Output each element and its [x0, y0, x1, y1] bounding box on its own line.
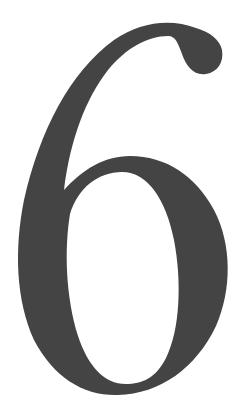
numeral-six: 6: [0, 0, 244, 415]
numeral-six-glyph: 6: [0, 0, 244, 415]
